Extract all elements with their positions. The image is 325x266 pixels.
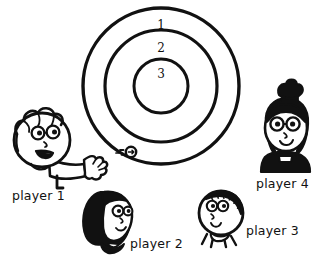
player-2-glasses-icon xyxy=(113,206,133,217)
illustration-canvas: 1 2 3 xyxy=(0,0,325,266)
player-2-label: player 2 xyxy=(130,236,183,251)
ring-label-3: 3 xyxy=(157,67,165,81)
concentric-ring-target[interactable]: 1 2 3 xyxy=(83,8,239,164)
player-1-hand xyxy=(84,156,107,179)
player-3-label: player 3 xyxy=(246,223,299,238)
player-4-label: player 4 xyxy=(256,176,309,191)
ring-label-2: 2 xyxy=(157,41,165,55)
player-4-collar xyxy=(279,156,292,162)
player-1-label: player 1 xyxy=(12,188,65,203)
ring-label-1: 1 xyxy=(157,18,165,32)
player-4-bun xyxy=(278,80,303,102)
player-2-figure[interactable]: player 2 xyxy=(83,192,183,253)
player-3-figure[interactable]: player 3 xyxy=(199,191,299,247)
scene-svg: 1 2 3 xyxy=(0,0,325,266)
player-4-figure[interactable]: player 4 xyxy=(256,80,310,192)
